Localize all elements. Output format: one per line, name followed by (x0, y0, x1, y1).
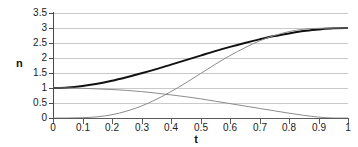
y-axis-tick-label: 1 (0, 83, 47, 93)
y-axis-tick-label: 1.5 (0, 68, 47, 78)
x-axis-title: t (181, 133, 211, 145)
y-axis-tick-text: 0.5 (33, 98, 47, 108)
y-axis-tick-text: 1.5 (33, 68, 47, 78)
series-line-increasing (53, 28, 348, 118)
chart-figure: n t 00.511.522.533.5 00.10.20.30.40.50.6… (0, 0, 358, 147)
y-axis-tick-text: 3 (41, 23, 47, 33)
series-line-total (53, 28, 348, 88)
y-axis-tick-text: 2 (41, 53, 47, 63)
y-axis-tick-label: 2 (0, 53, 47, 63)
x-axis-tick-label: 1 (333, 122, 358, 133)
y-axis-tick-label: 0.5 (0, 98, 47, 108)
y-axis-tick-text: 2.5 (33, 38, 47, 48)
y-axis-tick-label: 2.5 (0, 38, 47, 48)
x-axis-tick-label: 0.3 (127, 122, 157, 133)
x-axis-tick-label: 0 (38, 122, 68, 133)
x-axis-tick-label: 0.8 (274, 122, 304, 133)
y-axis-tick-label: 3 (0, 23, 47, 33)
x-axis-tick-label: 0.5 (186, 122, 216, 133)
y-axis-tick-text: 1 (41, 83, 47, 93)
x-axis-tick-label: 0.2 (97, 122, 127, 133)
x-axis-tick-label: 0.1 (68, 122, 98, 133)
y-axis-tick-label: 3.5 (0, 8, 47, 18)
x-axis-tick-label: 0.4 (156, 122, 186, 133)
y-axis-tick-text: 3.5 (33, 8, 47, 18)
x-axis-tick-label: 0.6 (215, 122, 245, 133)
x-axis-tick-label: 0.7 (245, 122, 275, 133)
data-curves (53, 13, 348, 118)
series-line-decreasing (53, 88, 348, 118)
x-axis-tick-label: 0.9 (304, 122, 334, 133)
